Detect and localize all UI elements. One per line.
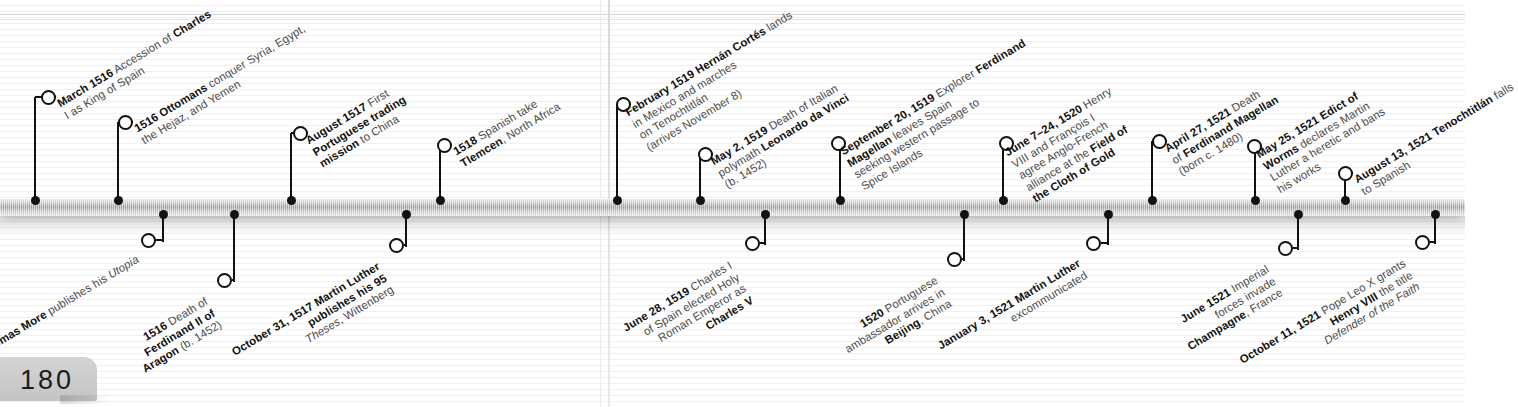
timeline-connector-stem [1151,141,1153,201]
timeline-connector-hook [760,242,766,244]
timeline-connector-stem [162,214,164,242]
timeline-marker-ring-icon [745,236,760,251]
timeline-axis-bar [0,199,1465,216]
timeline-connector-hook [1430,241,1436,243]
timeline-marker-ring-icon [389,238,404,253]
timeline-label-line: excommunicated [943,269,1090,365]
timeline-marker-ring-icon [1415,235,1430,250]
timeline-connector-stem [117,122,119,201]
timeline-connector-stem [34,97,36,201]
timeline-event-label: 1516 Thomas More publishes his Utopia [0,253,142,374]
timeline-marker-ring-icon [1278,241,1293,256]
timeline-connector-stem [616,104,618,201]
timeline-event-label: August 1517 FirstPortuguese tradingmissi… [303,81,415,171]
timeline-event-label: 1516 Death ofFerdinand II ofAragon (b. 1… [126,295,224,376]
timeline-label-line: publishes his 95 [237,272,390,371]
timeline-event-label: October 31, 1517 Martin Lutherpublishes … [230,260,397,383]
timeline-marker-ring-icon [947,252,962,267]
timeline-connector-stem [1107,214,1109,245]
timeline-connector-stem [764,214,766,245]
timeline-label-line: 1516 Thomas More publishes his Utopia [0,253,142,374]
timeline-event-label: January 3, 1521 Martin Lutherexcommunica… [936,257,1090,365]
timeline-connector-stem [233,214,235,282]
page-tab-shadow [60,395,110,404]
timeline-connector-hook [962,258,965,260]
timeline-marker-ring-icon [217,273,232,288]
timeline-connector-stem [963,214,965,261]
timeline-label-line: January 3, 1521 Martin Luther [936,257,1083,353]
timeline-connector-stem [439,145,441,201]
timeline-connector-hook [156,239,164,241]
timeline-event-label: 1518 Spanish takeTlemcen, North Africa [451,88,563,170]
timeline-marker-ring-icon [437,138,452,153]
timeline-connector-stem [405,214,407,247]
timeline-event-label: June 7–24, 1520 HenryVIII and François I… [1002,85,1142,206]
timeline-marker-ring-icon [1086,236,1101,251]
timeline-event-label: 1520 Portugueseambassador arrives inBeij… [836,274,955,368]
timeline-connector-stem [290,133,292,201]
timeline-label-line: polymath Leonardo da Vinci [715,91,851,180]
timeline-marker-ring-icon [118,115,133,130]
page-top-rule [0,14,1465,15]
timeline-marker-ring-icon [141,233,156,248]
page-number: 180 [20,365,74,396]
timeline-marker-ring-icon [41,90,56,105]
timeline-axis-shadow [0,216,1465,234]
timeline-connector-hook [404,244,407,246]
timeline-marker-ring-icon [1338,166,1353,181]
timeline-connector-stem [1434,214,1436,244]
timeline-connector-hook [1101,242,1109,244]
timeline-connector-stem [699,154,701,201]
timeline-connector-stem [1297,214,1299,250]
timeline-connector-hook [1293,247,1299,249]
page-top-rule-secondary [0,19,1465,20]
timeline-connector-hook [232,279,235,281]
timeline-event-label: June 28, 1519 Charles Iof Spain elected … [621,259,756,370]
